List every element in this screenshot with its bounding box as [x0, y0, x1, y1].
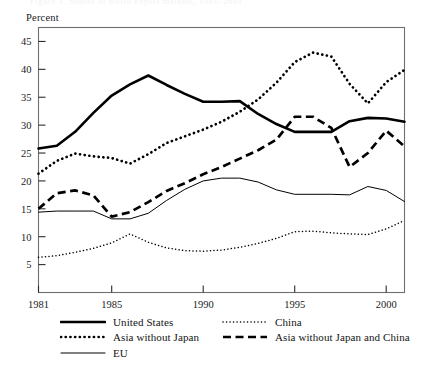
legend-swatch-china-icon — [222, 316, 268, 328]
y-tick-label: 25 — [21, 148, 32, 159]
y-tick-label: 10 — [21, 232, 32, 243]
x-tick-labels: 19811985199019952000 — [28, 299, 397, 310]
data-series — [39, 53, 405, 258]
axes — [39, 28, 405, 293]
legend-swatch-asia-without-japan-icon — [60, 331, 106, 343]
series-line-china — [39, 221, 405, 258]
y-tick-label: 40 — [21, 64, 32, 75]
legend-column-right: ChinaAsia without Japan and China — [222, 314, 410, 345]
chart-figure: Figure 3. Shares of world export markets… — [0, 0, 435, 372]
legend-label: United States — [113, 316, 173, 328]
x-tick-label: 1981 — [28, 299, 49, 310]
x-tick-label: 2000 — [376, 299, 397, 310]
y-tick-label: 20 — [21, 176, 32, 187]
legend-label: Asia without Japan and China — [275, 331, 410, 343]
series-line-asia-without-japan-and-china — [39, 117, 405, 217]
series-line-eu — [39, 178, 405, 219]
legend-swatch-asia-without-japan-and-china-icon — [222, 331, 268, 343]
y-tick-label: 45 — [21, 36, 32, 47]
y-tick-label: 35 — [21, 92, 32, 103]
legend-label: EU — [113, 347, 128, 359]
x-tick-label: 1985 — [101, 299, 122, 310]
legend-swatch-united-states-icon — [60, 316, 106, 328]
legend-column-left: United StatesAsia without JapanEU — [60, 314, 199, 361]
legend-item-china[interactable]: China — [222, 314, 410, 330]
legend-item-eu[interactable]: EU — [60, 345, 199, 361]
series-line-united-states — [39, 75, 405, 148]
y-tick-label: 5 — [26, 259, 31, 270]
legend-item-united-states[interactable]: United States — [60, 314, 199, 330]
chart-legend: United StatesAsia without JapanEU ChinaA… — [0, 314, 435, 370]
y-tick-labels: 51015202530354045 — [21, 36, 32, 270]
legend-label: Asia without Japan — [113, 331, 199, 343]
x-tick-label: 1995 — [284, 299, 305, 310]
legend-label: China — [275, 316, 302, 328]
tick-marks — [39, 41, 387, 292]
legend-item-asia-without-japan-and-china[interactable]: Asia without Japan and China — [222, 330, 410, 346]
x-tick-label: 1990 — [193, 299, 214, 310]
y-tick-label: 30 — [21, 120, 32, 131]
legend-item-asia-without-japan[interactable]: Asia without Japan — [60, 330, 199, 346]
axes-frame — [39, 28, 405, 293]
legend-swatch-eu-icon — [60, 347, 106, 359]
y-tick-label: 15 — [21, 204, 32, 215]
